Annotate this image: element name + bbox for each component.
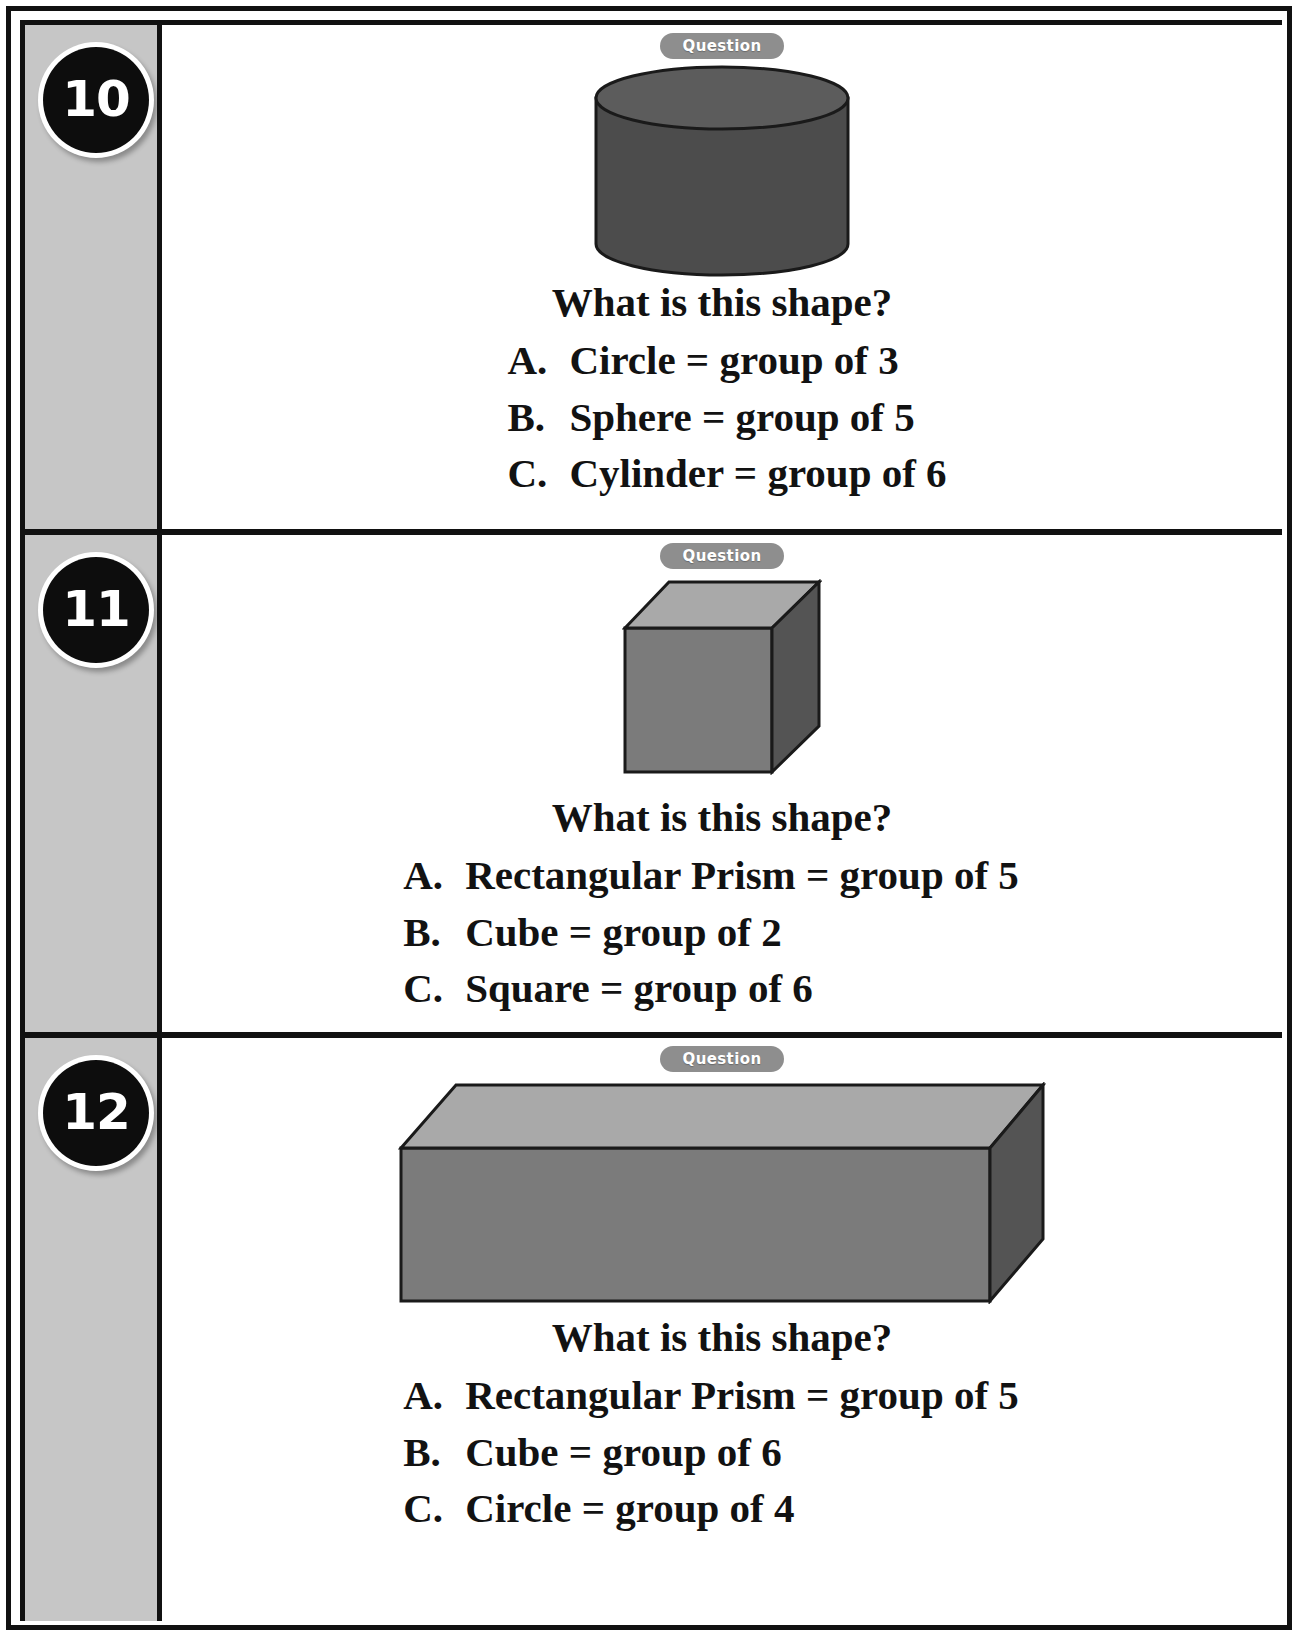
answer-option-letter: B. [403,904,465,961]
question-list: 10 Question What is this shape? [25,25,1282,1621]
answer-option-letter: B. [403,1424,465,1481]
answer-option-text: Circle = group of 4 [465,1480,1019,1537]
answer-option[interactable]: C. Circle = group of 4 [403,1480,1019,1537]
answer-option-letter: A. [403,1367,465,1424]
shape-figure-rectangular-prism [162,1082,1282,1314]
question-number-strip-11: 11 [25,535,162,1032]
answer-option[interactable]: A. Rectangular Prism = group of 5 [403,1367,1019,1424]
answer-option[interactable]: C. Cylinder = group of 6 [507,445,946,502]
answer-option-letter: B. [507,389,569,446]
answer-option[interactable]: B. Sphere = group of 5 [507,389,946,446]
worksheet-page: 10 Question What is this shape? [0,0,1299,1642]
question-number-badge-11: 11 [43,557,149,663]
cube-icon [622,579,822,775]
question-number-badge-10: 10 [43,47,149,153]
question-body-11: Question What is this shape? [162,535,1282,1032]
answer-option[interactable]: A. Rectangular Prism = group of 5 [403,847,1019,904]
question-prompt: What is this shape? [552,796,893,839]
question-number-label: 11 [62,584,130,637]
shape-figure-cube [162,579,1282,794]
question-prompt: What is this shape? [552,281,893,324]
question-number-strip-12: 12 [25,1038,162,1621]
question-number-badge-12: 12 [43,1060,149,1166]
answer-option[interactable]: B. Cube = group of 6 [403,1424,1019,1481]
question-badge-pill: Question [660,543,783,569]
question-prompt: What is this shape? [552,1316,893,1359]
answer-options-11: A. Rectangular Prism = group of 5 B. Cub… [403,847,1019,1017]
answer-option-text: Rectangular Prism = group of 5 [465,1367,1019,1424]
rectangular-prism-icon [398,1082,1046,1304]
answer-option-text: Cube = group of 6 [465,1424,1019,1481]
answer-option-text: Cylinder = group of 6 [569,445,946,502]
answer-option-text: Sphere = group of 5 [569,389,946,446]
answer-option-text: Square = group of 6 [465,960,1019,1017]
question-badge-pill: Question [660,33,783,59]
shape-figure-cylinder [162,65,1282,279]
question-text-block-12: What is this shape? A. Rectangular Prism… [162,1314,1282,1537]
answer-option-text: Rectangular Prism = group of 5 [465,847,1019,904]
question-text-block-11: What is this shape? A. Rectangular Prism… [162,794,1282,1017]
answer-options-12: A. Rectangular Prism = group of 5 B. Cub… [403,1367,1019,1537]
question-body-10: Question What is this shape? A. Cir [162,25,1282,529]
question-row-11: 11 Question What is this sha [25,535,1282,1038]
answer-options-10: A. Circle = group of 3 B. Sphere = group… [507,332,946,502]
answer-option-letter: C. [403,960,465,1017]
question-number-strip-10: 10 [25,25,162,529]
question-badge-pill: Question [660,1046,783,1072]
answer-option[interactable]: C. Square = group of 6 [403,960,1019,1017]
answer-option[interactable]: A. Circle = group of 3 [507,332,946,389]
question-row-10: 10 Question What is this shape? [25,25,1282,535]
question-number-label: 12 [62,1087,130,1140]
question-body-12: Question What is this shape? [162,1038,1282,1621]
answer-option-letter: C. [403,1480,465,1537]
question-text-block-10: What is this shape? A. Circle = group of… [162,279,1282,502]
answer-option-text: Circle = group of 3 [569,332,946,389]
answer-option-letter: A. [403,847,465,904]
answer-option[interactable]: B. Cube = group of 2 [403,904,1019,961]
answer-option-text: Cube = group of 2 [465,904,1019,961]
answer-option-letter: C. [507,445,569,502]
answer-option-letter: A. [507,332,569,389]
question-number-label: 10 [62,74,130,127]
question-row-12: 12 Question What is this sha [25,1038,1282,1621]
cylinder-icon [593,65,851,277]
